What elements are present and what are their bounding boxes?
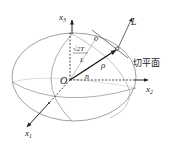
sqrt-2T-label: √2T xyxy=(73,45,85,53)
x3-label: x3 xyxy=(58,12,66,23)
L-label: L xyxy=(130,16,137,27)
n-label: n xyxy=(85,72,89,81)
n-vector xyxy=(84,67,90,71)
equator-curve xyxy=(12,82,136,98)
x1-label: x1 xyxy=(24,128,32,139)
tangent-plane-label: 切平面 xyxy=(133,58,160,68)
ellipsoid-diagram: x3 x2 x1 O n ρ L √2T L 切平面 xyxy=(0,0,173,141)
fraction-denominator: L xyxy=(79,56,84,64)
rho-label: ρ xyxy=(100,60,106,70)
L-vector xyxy=(118,18,132,48)
origin-label: O xyxy=(60,75,67,86)
x1-axis xyxy=(27,103,49,127)
rho-vector xyxy=(70,50,116,80)
x2-label: x2 xyxy=(145,84,153,95)
